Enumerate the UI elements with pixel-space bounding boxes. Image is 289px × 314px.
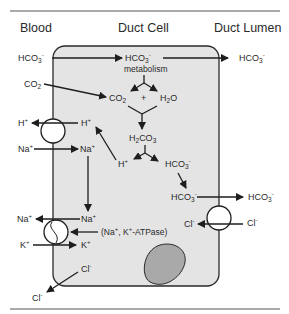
duct-cell-body — [53, 46, 219, 286]
label-hco3-blood: HCO3- — [18, 52, 44, 64]
label-na-blood: Na+ — [18, 143, 34, 154]
label-k-blood: K+ — [20, 239, 30, 250]
label-h2co3: H2CO3 — [129, 133, 157, 144]
header-duct-cell: Duct Cell — [118, 21, 169, 35]
label-h-blood: H+ — [18, 117, 29, 128]
header-blood: Blood — [20, 21, 52, 35]
label-hco3-lumen-top: HCO3- — [239, 52, 265, 64]
label-metabolism: metabolism — [124, 64, 167, 74]
label-cl-lumen: Cl- — [247, 217, 258, 228]
label-atpase: (Na+, K+-ATPase) — [101, 226, 168, 237]
label-cl-blood: Cl- — [32, 292, 43, 303]
label-co2-blood: CO2 — [24, 79, 42, 90]
header-duct-lumen: Duct Lumen — [214, 21, 281, 35]
label-hco3-lumen: HCO3- — [248, 191, 274, 203]
label-plus: + — [141, 93, 146, 103]
cl-hco3-exchanger — [207, 206, 231, 230]
bicarbonate-secretion-diagram: Blood Duct Cell Duct Lumen HCO3- HCO3- H… — [0, 0, 289, 314]
label-na-blood-pump: Na+ — [17, 213, 33, 224]
na-k-atpase — [44, 220, 68, 244]
